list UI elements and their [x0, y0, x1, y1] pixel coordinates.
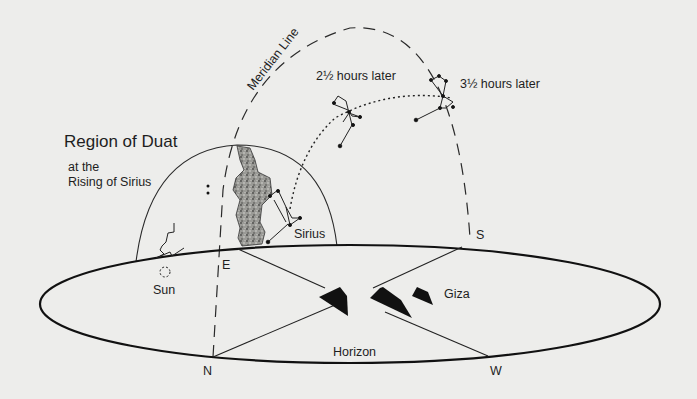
direction-north: N — [203, 364, 212, 378]
label-sirius: Sirius — [294, 227, 325, 241]
label-sun: Sun — [153, 283, 175, 297]
label-giza: Giza — [444, 287, 470, 301]
sun-icon — [160, 267, 170, 277]
line-north-south — [213, 305, 335, 357]
subtitle-line2: Rising of Sirius — [68, 175, 151, 190]
orion-path — [290, 96, 452, 210]
duat-sirius-diagram: Meridian Line — [0, 0, 697, 399]
diagram-title: Region of Duat — [64, 132, 177, 152]
direction-south: S — [476, 228, 484, 242]
direction-east: E — [222, 258, 230, 272]
subtitle-line1: at the — [68, 160, 99, 175]
label-2-5-hours-later: 2½ hours later — [316, 69, 396, 83]
label-3-5-hours-later: 3½ hours later — [460, 77, 540, 91]
direction-west: W — [490, 364, 502, 378]
constellation-left — [156, 223, 184, 258]
line-east-west — [238, 249, 325, 288]
giza-pyramids-icon — [319, 287, 433, 318]
meridian-label: Meridian Line — [244, 25, 301, 93]
orion-2-5h-icon — [332, 96, 361, 148]
label-horizon: Horizon — [333, 345, 376, 359]
milky-way — [233, 146, 272, 246]
